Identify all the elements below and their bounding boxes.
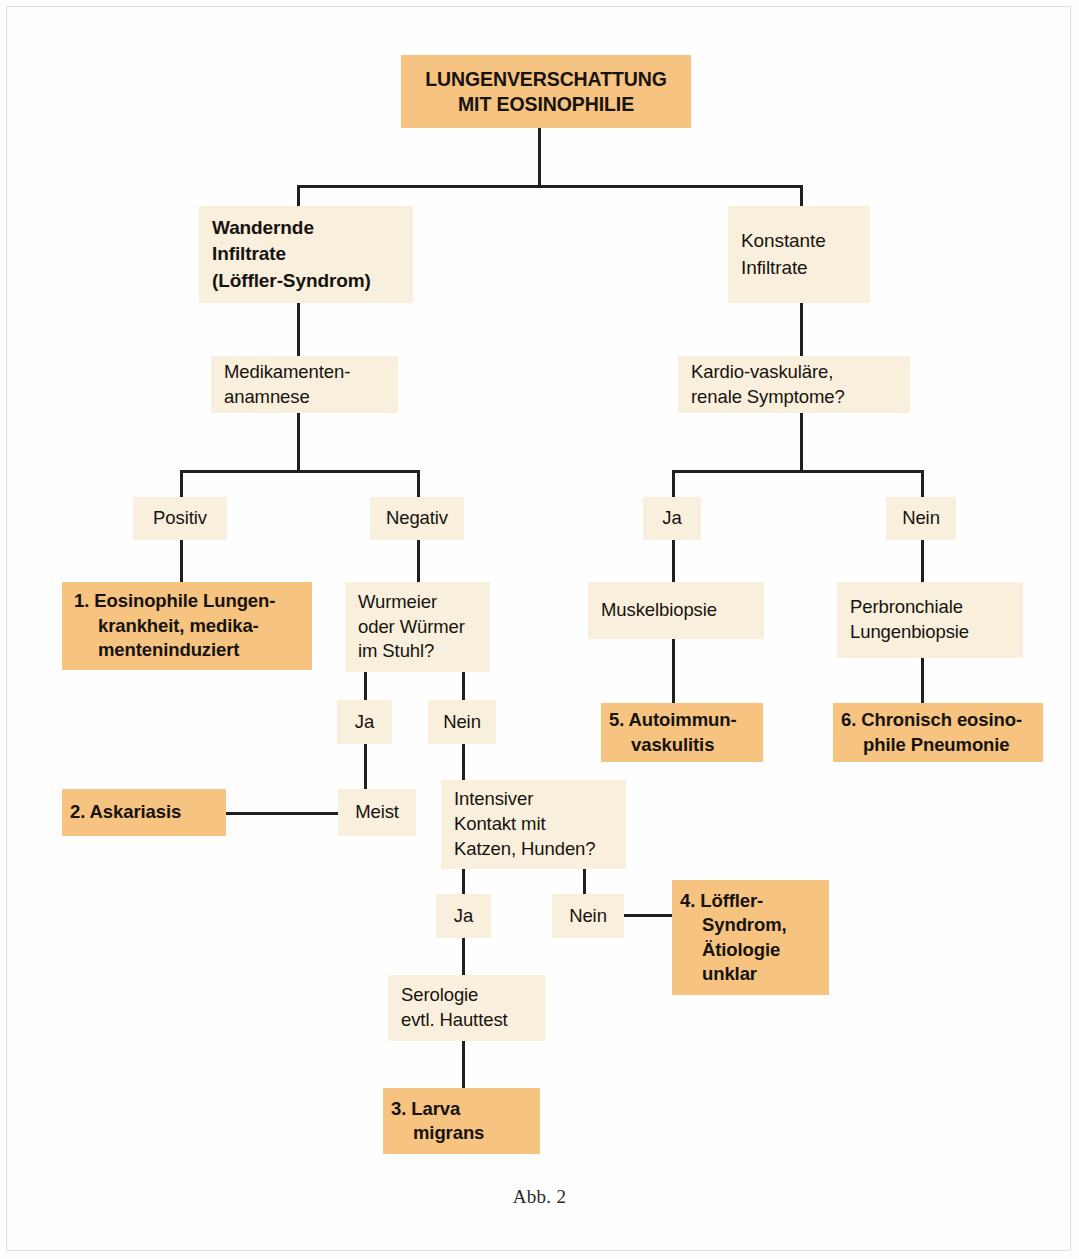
figure-caption-text: Abb. 2 [513,1186,567,1207]
node-medikamente-label: Medikamenten- anamnese [224,360,350,410]
node-perbronchiale-lungenbiopsie: Perbronchiale Lungenbiopsie [837,582,1023,658]
connector-kardio-split [672,470,924,473]
node-result5-label: 5. Autoimmun- vaskulitis [601,708,739,757]
connector-nein1-intensiver [462,744,465,780]
connector-nein2-perbronch [921,540,924,582]
node-perbronch-label: Perbronchiale Lungenbiopsie [850,595,969,645]
node-answer-meist: Meist [338,789,416,836]
connector-muskel-result5 [672,639,675,703]
connector-kardio-down [800,413,803,470]
connector-konstante-kardio [800,303,803,356]
connector-nein3-result4 [624,914,672,917]
node-kardio-label: Kardio-vaskuläre, renale Symptome? [691,360,845,410]
connector-wandernde-medikamente [297,303,300,356]
connector-medikamente-down [297,413,300,470]
node-konstante-infiltrate: Konstante Infiltrate [728,206,870,303]
node-ja1-label: Ja [355,711,374,733]
node-result1-label: 1. Eosinophile Lungen- krankheit, medika… [62,589,275,662]
connector-to-wandernde [297,185,300,206]
node-root-title: LUNGENVERSCHATTUNG MIT EOSINOPHILIE [401,55,691,128]
connector-to-nein2 [921,470,924,497]
node-kardio-renale-symptome: Kardio-vaskuläre, renale Symptome? [678,356,910,413]
node-root-label: LUNGENVERSCHATTUNG MIT EOSINOPHILIE [425,67,667,116]
node-positiv-label: Positiv [153,507,207,529]
node-nein3-label: Nein [569,905,607,927]
connector-ja3-serologie [462,938,465,975]
node-wandernde-infiltrate: Wandernde Infiltrate (Löffler-Syndrom) [199,206,413,303]
connector-root-down [538,128,541,185]
node-result4-label: 4. Löffler- Syndrom, Ätiologie unklar [672,889,787,985]
node-intensiver-label: Intensiver Kontakt mit Katzen, Hunden? [454,787,595,862]
node-answer-negativ: Negativ [370,497,464,540]
connector-to-positiv [180,470,183,497]
connector-medikamente-split [180,470,420,473]
node-answer-nein-kardio: Nein [886,497,956,540]
node-result-6: 6. Chronisch eosino- phile Pneumonie [833,703,1043,762]
connector-to-ja1 [364,672,367,700]
connector-to-ja2 [672,470,675,497]
connector-negativ-wurmeier [417,540,420,582]
node-result3-label: 3. Larva migrans [383,1097,484,1146]
node-result6-label: 6. Chronisch eosino- phile Pneumonie [833,708,1022,757]
connector-to-nein1 [462,672,465,700]
node-ja2-label: Ja [662,507,681,529]
node-wurmeier-label: Wurmeier oder Würmer im Stuhl? [358,590,465,665]
node-result-4: 4. Löffler- Syndrom, Ätiologie unklar [672,880,829,995]
node-serologie-label: Serologie evtl. Hauttest [401,983,508,1033]
node-answer-ja-kardio: Ja [643,497,701,540]
node-nein2-label: Nein [902,507,940,529]
node-wandernde-label: Wandernde Infiltrate (Löffler-Syndrom) [212,215,371,294]
node-medikamentenanamnese: Medikamenten- anamnese [211,356,398,413]
node-muskel-label: Muskelbiopsie [601,599,717,621]
connector-to-nein3 [583,869,586,894]
node-ja3-label: Ja [454,905,473,927]
node-result-3: 3. Larva migrans [383,1088,540,1154]
connector-to-negativ [417,470,420,497]
node-result2-label: 2. Askariasis [62,801,184,823]
node-answer-positiv: Positiv [133,497,227,540]
node-result-5: 5. Autoimmun- vaskulitis [601,703,763,762]
connector-result2-meist [226,812,340,815]
node-intensiver-kontakt-frage: Intensiver Kontakt mit Katzen, Hunden? [441,780,626,869]
connector-positiv-result1 [180,540,183,582]
connector-perbronch-result6 [921,658,924,703]
node-muskelbiopsie: Muskelbiopsie [588,582,764,639]
node-serologie-hauttest: Serologie evtl. Hauttest [388,975,545,1041]
node-konstante-label: Konstante Infiltrate [741,228,826,280]
connector-ja2-muskel [672,540,675,582]
connector-to-konstante [800,185,803,206]
node-negativ-label: Negativ [386,507,448,529]
node-result-2: 2. Askariasis [62,789,226,836]
node-answer-ja-kontakt: Ja [436,894,491,938]
node-answer-ja-wurmeier: Ja [337,700,392,744]
connector-serologie-result3 [462,1041,465,1088]
node-answer-nein-kontakt: Nein [552,894,624,938]
node-answer-nein-wurmeier: Nein [428,700,496,744]
connector-to-ja3 [462,869,465,894]
node-meist-label: Meist [355,801,399,823]
figure-caption: Abb. 2 [0,1186,1079,1208]
connector-root-split [297,185,803,188]
figure-page: LUNGENVERSCHATTUNG MIT EOSINOPHILIE Wand… [0,0,1079,1259]
node-result-1: 1. Eosinophile Lungen- krankheit, medika… [62,582,312,670]
node-wurmeier-frage: Wurmeier oder Würmer im Stuhl? [345,582,490,672]
node-nein1-label: Nein [443,711,481,733]
